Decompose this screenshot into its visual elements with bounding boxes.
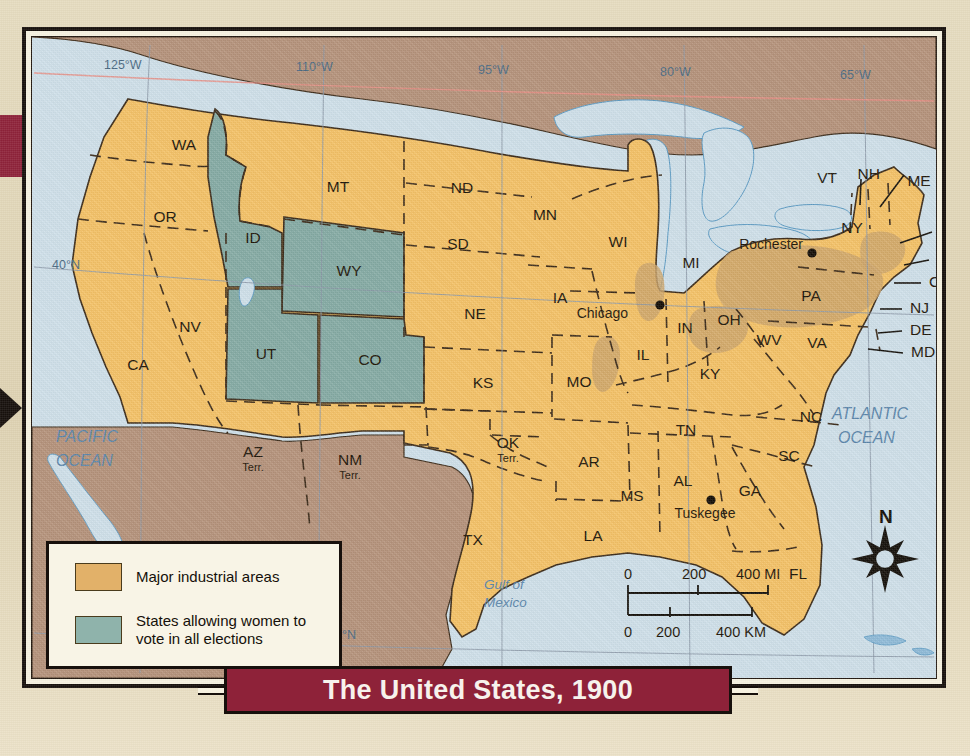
state-label-ut: UT — [256, 345, 277, 362]
state-label-ms: MS — [620, 487, 643, 504]
state-label-tn: TN — [676, 421, 697, 438]
state-label-pa: PA — [801, 287, 821, 304]
pacific-ocean-label-line2: OCEAN — [56, 452, 113, 469]
legend-swatch-industrial — [75, 563, 122, 591]
scale-mi-tick-400: 400 MI — [736, 566, 780, 582]
pacific-ocean-label-line1: PACIFIC — [56, 428, 118, 445]
state-label-wa: WA — [172, 136, 197, 153]
state-label-wy: WY — [337, 262, 362, 279]
legend-swatch-suffrage — [75, 616, 122, 644]
state-label-nj: NJ — [910, 299, 929, 316]
lake-ontario — [775, 205, 852, 231]
map-canvas[interactable]: 125°W 110°W 95°W 80°W 65°W 40°N 25°N PAC… — [31, 36, 937, 679]
margin-maroon-tab — [0, 115, 22, 177]
city-dot-chicago — [655, 300, 664, 309]
margin-arrow-icon — [0, 388, 22, 428]
compass-north-label: N — [879, 506, 893, 527]
state-label-az: AZ — [243, 443, 263, 460]
legend-label-industrial: Major industrial areas — [136, 568, 279, 586]
state-label-nd: ND — [451, 179, 473, 196]
banner-wing-left — [198, 686, 224, 695]
state-label-or: OR — [153, 208, 176, 225]
coord-label-95w: 95°W — [478, 63, 509, 77]
coord-label-40n: 40°N — [52, 258, 80, 272]
state-sublabel-nm: Terr. — [339, 469, 360, 481]
scale-mi-tick-200: 200 — [682, 566, 706, 582]
state-label-ca: CA — [127, 356, 149, 373]
state-label-fl: FL — [789, 565, 807, 582]
state-label-wi: WI — [609, 233, 628, 250]
atlantic-ocean-label-line2: OCEAN — [838, 429, 895, 446]
state-label-nc: NC — [800, 408, 822, 425]
state-label-ny: NY — [841, 219, 863, 236]
state-sublabel-ok: Terr. — [497, 452, 518, 464]
state-label-mn: MN — [533, 206, 557, 223]
scale-km-tick-0: 0 — [624, 624, 632, 640]
state-label-mo: MO — [567, 373, 592, 390]
state-label-nh: NH — [858, 165, 880, 182]
state-label-ks: KS — [473, 374, 494, 391]
state-label-wv: WV — [757, 331, 783, 348]
coord-label-110w: 110°W — [296, 60, 333, 74]
state-label-ga: GA — [739, 482, 762, 499]
city-label-rochester: Rochester — [739, 236, 803, 252]
state-label-ar: AR — [578, 453, 600, 470]
state-label-de: DE — [910, 321, 932, 338]
map-mat: 125°W 110°W 95°W 80°W 65°W 40°N 25°N PAC… — [26, 31, 942, 684]
city-label-chicago: Chicago — [577, 305, 629, 321]
state-label-md: MD — [911, 343, 935, 360]
state-label-oh: OH — [717, 311, 740, 328]
map-title-banner: The United States, 1900 — [224, 666, 732, 714]
state-label-nm: NM — [338, 451, 362, 468]
state-label-in: IN — [677, 319, 693, 336]
state-sublabel-az: Terr. — [242, 461, 263, 473]
state-label-ne: NE — [464, 305, 486, 322]
state-label-ok: OK — [497, 434, 520, 451]
state-label-mi: MI — [682, 254, 699, 271]
state-label-il: IL — [637, 346, 650, 363]
legend-label-suffrage: States allowing women tovote in all elec… — [136, 612, 306, 647]
city-dot-rochester — [807, 248, 816, 257]
scale-km-tick-400: 400 KM — [716, 624, 766, 640]
state-label-sc: SC — [778, 447, 800, 464]
state-label-id: ID — [245, 229, 261, 246]
state-label-va: VA — [807, 334, 827, 351]
gulf-of-mexico-label-line1: Gulf of — [484, 577, 525, 592]
gulf-of-mexico-label-line2: Mexico — [484, 595, 527, 610]
callout-leader-vt — [860, 179, 861, 205]
atlantic-ocean-label-line1: ATLANTIC — [831, 405, 909, 422]
state-label-mt: MT — [327, 178, 350, 195]
legend-item-suffrage: States allowing women tovote in all elec… — [49, 612, 339, 647]
city-dot-tuskegee — [706, 495, 715, 504]
state-label-ia: IA — [553, 289, 568, 306]
state-label-me: ME — [907, 172, 930, 189]
state-label-vt: VT — [817, 169, 837, 186]
state-label-ct: CT — [929, 273, 936, 290]
page-canvas: 125°W 110°W 95°W 80°W 65°W 40°N 25°N PAC… — [0, 0, 970, 756]
state-label-ky: KY — [700, 365, 721, 382]
state-label-sd: SD — [447, 235, 469, 252]
coord-label-125w: 125°W — [104, 58, 142, 72]
banner-wing-right — [732, 686, 758, 695]
city-label-tuskegee: Tuskegee — [675, 505, 736, 521]
coord-label-65w: 65°W — [840, 68, 871, 82]
legend-item-industrial: Major industrial areas — [49, 563, 339, 591]
state-label-la: LA — [584, 527, 604, 544]
state-label-al: AL — [674, 472, 693, 489]
state-label-co: CO — [358, 351, 381, 368]
map-legend: Major industrial areas States allowing w… — [46, 541, 342, 669]
scale-km-tick-200: 200 — [656, 624, 680, 640]
scale-mi-tick-0: 0 — [624, 566, 632, 582]
state-label-nv: NV — [179, 318, 201, 335]
map-frame: 125°W 110°W 95°W 80°W 65°W 40°N 25°N PAC… — [22, 27, 946, 688]
state-label-tx: TX — [463, 531, 483, 548]
page-title: The United States, 1900 — [323, 675, 633, 706]
coord-label-80w: 80°W — [660, 65, 691, 79]
